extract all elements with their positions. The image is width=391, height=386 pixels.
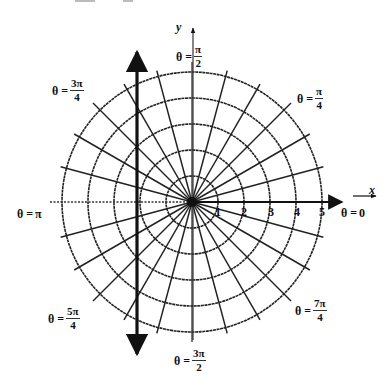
ring-label-1: 1: [215, 205, 221, 220]
angle-label-theta-pi: θ = π: [17, 208, 42, 220]
angle-prefix: θ =: [341, 207, 357, 219]
fraction-denominator: 2: [196, 361, 202, 373]
angle-prefix: θ =: [17, 208, 33, 220]
y-axis-label: y: [176, 20, 181, 35]
cropped-text-fragment: [75, 0, 135, 3]
pole-point: [187, 197, 197, 207]
fraction: 3π4: [70, 78, 84, 103]
angle-label-theta-pi-4: θ = π4: [297, 86, 323, 111]
radial-line: [192, 202, 260, 320]
fraction-numerator: 5π: [66, 306, 80, 319]
fraction-numerator: 3π: [70, 78, 84, 91]
fraction: π2: [194, 44, 202, 69]
angle-prefix: θ =: [48, 313, 64, 325]
angle-label-theta-5pi-4: θ = 5π4: [48, 306, 80, 331]
x-axis-label: x: [369, 183, 375, 198]
radial-line: [124, 202, 192, 320]
ring-label-4: 4: [294, 205, 300, 220]
fraction-denominator: 4: [70, 319, 76, 331]
fraction-numerator: 7π: [313, 298, 327, 311]
angle-label-theta-pi-2: θ = π2: [176, 44, 202, 69]
angle-label-theta-0: θ = 0: [341, 207, 365, 219]
angle-value: 0: [359, 207, 365, 219]
angle-label-theta-7pi-4: θ = 7π4: [295, 298, 327, 323]
fraction-denominator: 4: [316, 99, 322, 111]
angle-value: π: [35, 208, 42, 220]
angle-prefix: θ =: [176, 51, 192, 63]
angle-prefix: θ =: [295, 305, 311, 317]
fraction: 3π2: [192, 348, 206, 373]
fraction-numerator: π: [194, 44, 202, 57]
radial-line: [74, 202, 192, 270]
radial-line: [74, 134, 192, 202]
angle-label-theta-3pi-2: θ = 3π2: [174, 348, 206, 373]
fraction: 5π4: [66, 306, 80, 331]
fraction: 7π4: [313, 298, 327, 323]
ring-label-5: 5: [319, 205, 325, 220]
fraction-denominator: 4: [317, 311, 323, 323]
fraction-numerator: π: [315, 86, 323, 99]
fraction-denominator: 2: [195, 57, 201, 69]
ring-label-2: 2: [241, 205, 247, 220]
radial-line: [192, 134, 310, 202]
fraction-denominator: 4: [74, 91, 80, 103]
angle-prefix: θ =: [52, 85, 68, 97]
angle-prefix: θ =: [297, 93, 313, 105]
radial-line: [192, 202, 310, 270]
radial-line: [192, 84, 260, 202]
radial-line: [192, 167, 323, 202]
fraction: π4: [315, 86, 323, 111]
fraction-numerator: 3π: [192, 348, 206, 361]
angle-label-theta-3pi-4: θ = 3π4: [52, 78, 84, 103]
ring-label-3: 3: [268, 205, 274, 220]
angle-prefix: θ =: [174, 355, 190, 367]
radial-line: [124, 84, 192, 202]
